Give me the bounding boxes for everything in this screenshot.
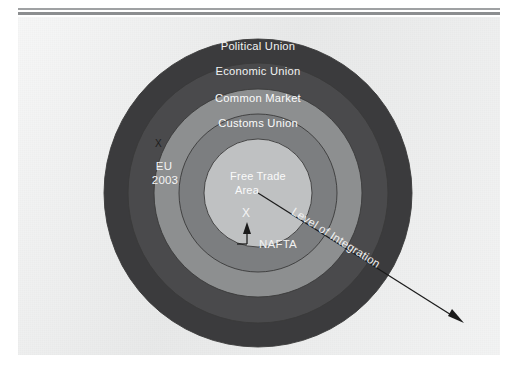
center-label-line-2: Area [235,184,260,196]
top-rule-line-1 [18,8,500,10]
integration-levels-diagram: Political Union Economic Union Common Ma… [18,17,500,355]
eu-annotation-line-1: EU [156,160,172,172]
top-rule-line-2 [18,12,500,15]
center-marker-x: X [242,206,250,220]
ring-label-political-union: Political Union [221,40,296,52]
eu-marker-x: X [155,138,162,149]
ring-label-economic-union: Economic Union [216,65,301,77]
diagram-svg: Political Union Economic Union Common Ma… [18,17,500,355]
level-of-integration-arrowhead [448,309,464,323]
eu-annotation-line-2: 2003 [152,174,178,186]
nafta-label: NAFTA [259,238,297,250]
center-label-line-1: Free Trade [230,170,286,182]
ring-label-customs-union: Customs Union [218,117,298,129]
ring-label-common-market: Common Market [215,92,302,104]
